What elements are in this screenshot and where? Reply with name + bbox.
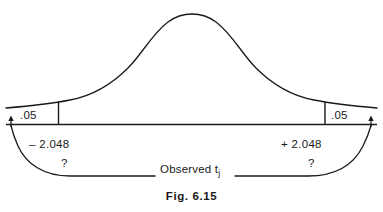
right-observed-leader-line <box>235 126 371 177</box>
figure-caption: Fig. 6.15 <box>0 190 383 202</box>
left-observed-leader-line <box>11 126 155 177</box>
observed-statistic-label: Observed tj <box>160 164 220 176</box>
right-tail-area-label: .05 <box>331 110 348 122</box>
left-query-mark: ? <box>61 158 67 170</box>
right-critical-value-label: + 2.048 <box>281 139 322 151</box>
observed-statistic-text: Observed t <box>160 163 218 175</box>
left-tail-area-label: .05 <box>20 110 37 122</box>
observed-statistic-subscript: j <box>218 168 220 178</box>
left-critical-value-label: – 2.048 <box>29 139 69 151</box>
t-distribution-diagram <box>0 0 383 212</box>
right-query-mark: ? <box>308 158 314 170</box>
figure-container: .05 .05 – 2.048 + 2.048 ? ? Observed tj … <box>0 0 383 212</box>
t-distribution-curve <box>6 14 377 108</box>
